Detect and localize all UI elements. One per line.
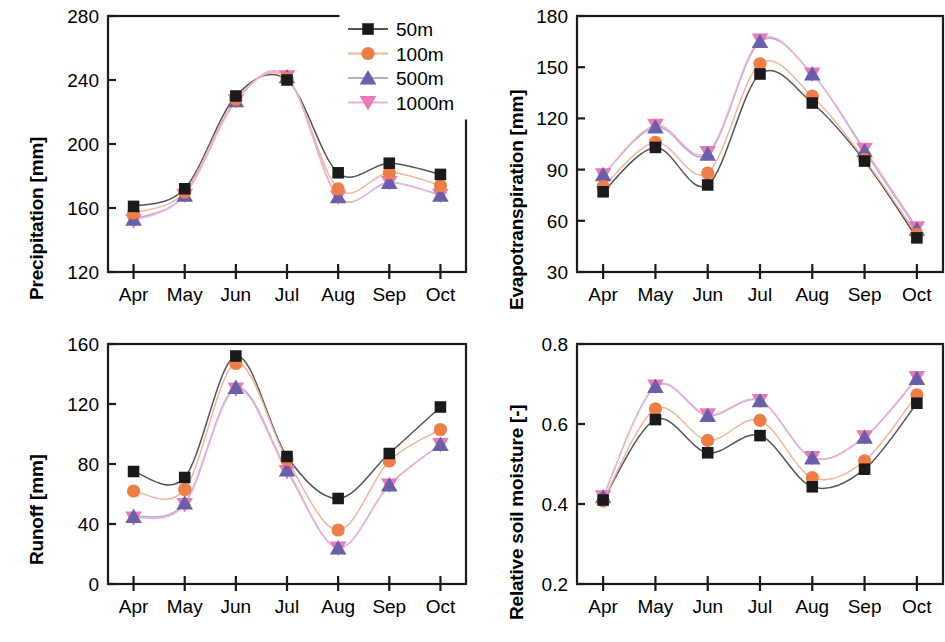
- y-tick-label: 280: [67, 6, 99, 27]
- series-markers-50m: [128, 350, 446, 504]
- multi-panel-figure: Precipitation [mm] 120160200240280AprMay…: [0, 0, 945, 642]
- data-point-100m-May: [649, 402, 662, 415]
- series-markers-100m: [127, 357, 447, 537]
- x-tick-label: Jun: [221, 596, 252, 617]
- data-point-50m-May: [179, 183, 191, 195]
- y-tick-label: 240: [67, 70, 99, 91]
- data-point-50m-Apr: [128, 201, 140, 213]
- series-markers: [595, 370, 925, 507]
- data-point-50m-Jun: [230, 90, 242, 102]
- y-axis-title-relative-soil-moisture: Relative soil moisture [-]: [506, 405, 528, 620]
- x-tick-label: Apr: [119, 284, 149, 305]
- x-tick-label: Jun: [692, 284, 723, 305]
- x-tick-label: Aug: [321, 596, 355, 617]
- data-point-50m-Oct: [911, 232, 923, 244]
- plot-area-precipitation: 120160200240280AprMayJunJulAugSepOct50m1…: [0, 0, 480, 330]
- y-tick-label: 0: [88, 574, 99, 595]
- x-tick-label: Jul: [748, 284, 772, 305]
- x-tick-label: Sep: [848, 284, 882, 305]
- data-point-50m-Jul: [281, 451, 293, 463]
- data-point-50m-Sep: [384, 157, 396, 169]
- legend-label-1000m: 1000m: [396, 93, 454, 114]
- legend: 50m100m500m1000m: [340, 14, 468, 119]
- data-point-50m-Apr: [128, 466, 140, 478]
- legend-marker-100m: [361, 47, 374, 60]
- y-tick-label: 0.6: [542, 414, 568, 435]
- data-point-100m-Jun: [701, 434, 714, 447]
- data-point-50m-Jun: [702, 179, 714, 191]
- panel-relative-soil-moisture: Relative soil moisture [-] 0.20.40.60.8A…: [480, 330, 945, 642]
- data-point-50m-Aug: [807, 481, 819, 493]
- data-point-50m-Jul: [754, 430, 766, 442]
- x-tick-label: Oct: [426, 284, 456, 305]
- series-markers-50m: [597, 68, 922, 243]
- data-point-50m-Aug: [807, 97, 819, 109]
- data-point-50m-Jul: [281, 74, 293, 86]
- x-tick-label: Apr: [588, 596, 618, 617]
- y-tick-label: 160: [67, 334, 99, 355]
- x-tick-label: Apr: [119, 596, 149, 617]
- y-tick-label: 200: [67, 134, 99, 155]
- x-tick-label: May: [637, 284, 673, 305]
- y-tick-label: 120: [536, 108, 568, 129]
- x-tick-label: Sep: [372, 284, 406, 305]
- x-tick-label: May: [167, 596, 203, 617]
- x-tick-label: Oct: [902, 284, 932, 305]
- data-point-50m-Apr: [597, 186, 609, 198]
- x-tick-label: Oct: [902, 596, 932, 617]
- data-point-100m-Oct: [434, 179, 447, 192]
- y-tick-label: 90: [547, 160, 568, 181]
- data-point-50m-May: [179, 472, 191, 484]
- data-point-50m-Apr: [597, 494, 609, 506]
- data-point-50m-May: [650, 142, 662, 154]
- x-tick-label: Jun: [221, 284, 252, 305]
- data-point-100m-Jun: [701, 166, 714, 179]
- x-tick-label: May: [167, 284, 203, 305]
- y-tick-label: 0.8: [542, 334, 568, 355]
- x-tick-label: Aug: [795, 596, 829, 617]
- data-point-50m-Aug: [332, 493, 344, 505]
- x-tick-label: Jul: [275, 284, 299, 305]
- data-point-50m-Jun: [230, 350, 242, 362]
- y-tick-label: 30: [547, 262, 568, 283]
- y-tick-label: 80: [78, 454, 99, 475]
- y-axis-title-runoff: Runoff [mm]: [26, 454, 48, 565]
- y-axis-title-precipitation: Precipitation [mm]: [26, 137, 48, 300]
- legend-label-100m: 100m: [396, 44, 444, 65]
- data-point-50m-Oct: [911, 397, 923, 409]
- data-point-50m-Oct: [435, 401, 447, 413]
- data-point-100m-Jul: [753, 414, 766, 427]
- y-tick-label: 0.2: [542, 574, 568, 595]
- y-tick-label: 180: [536, 6, 568, 27]
- x-tick-label: Oct: [426, 596, 456, 617]
- series-markers: [595, 33, 925, 243]
- legend-marker-50m: [362, 23, 374, 35]
- plot-area-runoff: 04080120160AprMayJunJulAugSepOct: [0, 330, 480, 642]
- data-point-100m-Aug: [332, 523, 345, 536]
- series-markers-500m: [125, 380, 448, 555]
- x-tick-label: Sep: [372, 596, 406, 617]
- plot-area-relative-soil-moisture: 0.20.40.60.8AprMayJunJulAugSepOct: [480, 330, 945, 642]
- series-markers: [125, 350, 448, 556]
- x-tick-label: May: [637, 596, 673, 617]
- y-axis-title-evapotranspiration: Evapotranspiration [mm]: [506, 90, 528, 310]
- data-point-100m-Aug: [332, 182, 345, 195]
- data-point-50m-May: [650, 414, 662, 426]
- plot-frame: [577, 344, 943, 584]
- y-tick-label: 120: [67, 262, 99, 283]
- plot-area-evapotranspiration: 306090120150180AprMayJunJulAugSepOct: [480, 0, 945, 330]
- x-tick-label: Jun: [692, 596, 723, 617]
- x-tick-label: Aug: [321, 284, 355, 305]
- y-tick-label: 40: [78, 514, 99, 535]
- panel-runoff: Runoff [mm] 04080120160AprMayJunJulAugSe…: [0, 330, 480, 642]
- data-point-50m-Aug: [332, 167, 344, 179]
- legend-label-500m: 500m: [396, 68, 444, 89]
- series-markers-100m: [597, 57, 924, 241]
- panel-precipitation: Precipitation [mm] 120160200240280AprMay…: [0, 0, 480, 330]
- y-tick-label: 160: [67, 198, 99, 219]
- y-tick-label: 150: [536, 57, 568, 78]
- legend-label-50m: 50m: [396, 19, 433, 40]
- data-point-100m-May: [178, 483, 191, 496]
- panel-evapotranspiration: Evapotranspiration [mm] 306090120150180A…: [480, 0, 945, 330]
- data-point-100m-Oct: [434, 423, 447, 436]
